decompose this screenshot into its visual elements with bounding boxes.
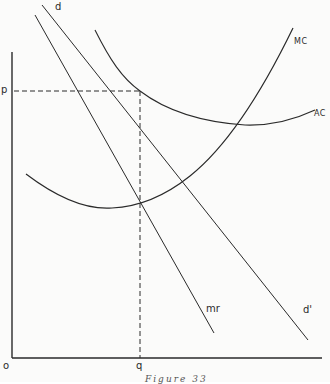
label-mc: MC bbox=[294, 38, 308, 46]
figure-caption: Figure 33 bbox=[145, 374, 208, 384]
label-quantity: q bbox=[136, 361, 142, 371]
label-ac: AC bbox=[314, 110, 326, 118]
label-mr: mr bbox=[206, 304, 220, 314]
average-cost-curve bbox=[95, 30, 315, 125]
demand-line bbox=[42, 5, 308, 340]
label-origin: o bbox=[3, 361, 9, 371]
label-price: p bbox=[1, 85, 7, 95]
marginal-cost-curve bbox=[26, 28, 293, 208]
label-demand-bottom: d' bbox=[303, 305, 312, 315]
label-demand-top: d bbox=[55, 2, 61, 12]
marginal-revenue-line bbox=[35, 15, 214, 333]
